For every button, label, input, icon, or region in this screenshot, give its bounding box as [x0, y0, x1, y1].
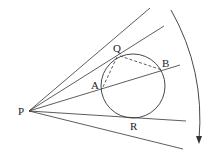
label-q: Q [113, 42, 121, 54]
geometry-diagram: P Q A B R [0, 0, 213, 160]
label-a: A [91, 79, 99, 91]
arrowhead-icon [196, 136, 202, 144]
ray-bottom [29, 111, 183, 149]
ray-top [29, 8, 150, 111]
ray-tangent-q [29, 26, 164, 111]
ray-tangent-r [29, 111, 186, 121]
label-b: B [162, 57, 169, 69]
label-p: P [18, 105, 24, 117]
label-r: R [130, 120, 138, 132]
